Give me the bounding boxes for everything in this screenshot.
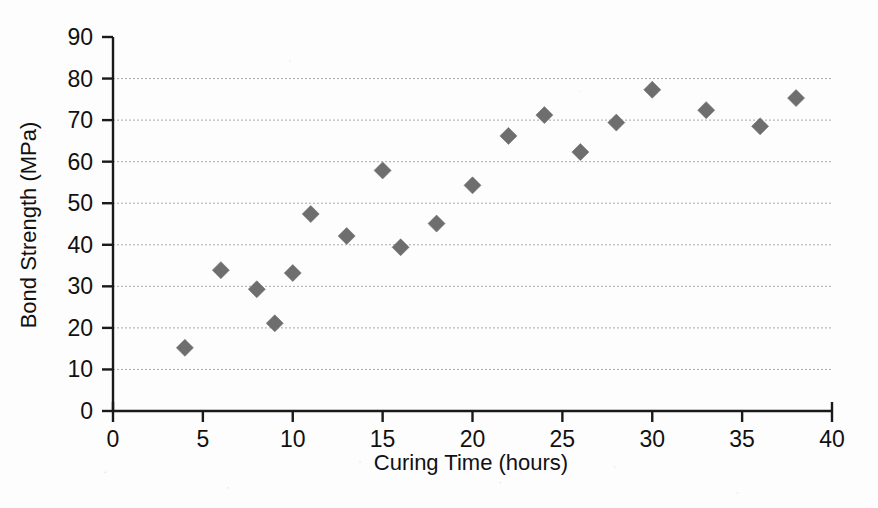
y-tick-label-80: 80 xyxy=(67,66,93,92)
data-point xyxy=(212,262,229,279)
data-point xyxy=(536,107,553,124)
data-point xyxy=(608,114,625,131)
data-point xyxy=(572,144,589,161)
data-point xyxy=(392,239,409,256)
data-point xyxy=(788,90,805,107)
x-tick-label-25: 25 xyxy=(550,426,576,452)
gridlines xyxy=(113,79,832,370)
x-axis-ticks xyxy=(113,411,832,422)
y-tick-label-10: 10 xyxy=(67,356,93,382)
data-point xyxy=(698,102,715,119)
y-tick-label-20: 20 xyxy=(67,315,93,341)
data-point-series xyxy=(176,81,804,356)
x-tick-label-40: 40 xyxy=(819,426,845,452)
x-tick-label-5: 5 xyxy=(196,426,209,452)
y-tick-label-50: 50 xyxy=(67,190,93,216)
chart-page: 0510152025303540 0102030405060708090 Cur… xyxy=(0,0,878,508)
data-point xyxy=(338,228,355,245)
y-tick-label-30: 30 xyxy=(67,273,93,299)
x-tick-label-10: 10 xyxy=(280,426,306,452)
y-tick-label-0: 0 xyxy=(80,398,93,424)
y-axis-tick-labels: 0102030405060708090 xyxy=(67,24,93,424)
x-tick-label-15: 15 xyxy=(370,426,396,452)
x-axis-title: Curing Time (hours) xyxy=(374,450,568,475)
x-tick-label-35: 35 xyxy=(729,426,755,452)
y-tick-label-40: 40 xyxy=(67,232,93,258)
data-point xyxy=(248,281,265,298)
data-point xyxy=(266,315,283,332)
y-tick-label-70: 70 xyxy=(67,107,93,133)
y-tick-label-60: 60 xyxy=(67,149,93,175)
x-tick-label-30: 30 xyxy=(639,426,665,452)
data-point xyxy=(428,215,445,232)
scatter-chart: 0510152025303540 0102030405060708090 Cur… xyxy=(0,0,878,508)
x-tick-label-0: 0 xyxy=(107,426,120,452)
y-axis-title: Bond Strength (MPa) xyxy=(16,122,41,329)
data-point xyxy=(464,177,481,194)
data-point xyxy=(374,162,391,179)
axis-lines xyxy=(113,37,832,411)
data-point xyxy=(500,127,517,144)
x-tick-label-20: 20 xyxy=(460,426,486,452)
y-tick-label-90: 90 xyxy=(67,24,93,50)
data-point xyxy=(302,206,319,223)
y-axis-ticks xyxy=(102,37,113,411)
data-point xyxy=(284,265,301,282)
data-point xyxy=(176,339,193,356)
data-point xyxy=(644,81,661,98)
x-axis-tick-labels: 0510152025303540 xyxy=(107,426,845,452)
